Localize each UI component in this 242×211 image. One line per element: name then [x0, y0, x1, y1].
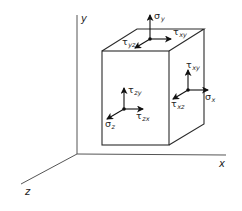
y-axis-label: y [80, 13, 88, 24]
right-face-stresses: τxy σx τxz [171, 59, 216, 111]
cube-top-face [102, 29, 204, 51]
cube-right-face [169, 29, 204, 145]
z-axis [21, 154, 77, 184]
tau-zy-label: τzy [128, 84, 142, 97]
sigma-y-label: σy [154, 10, 165, 23]
stress-element-diagram: y x z σy τxy τyz τzy [0, 0, 242, 211]
tau-yz-arrow [135, 39, 150, 48]
tau-yz-label: τyz [122, 36, 136, 49]
cube [102, 29, 204, 145]
z-axis-label: z [24, 186, 31, 197]
x-axis-label: x [218, 158, 225, 169]
tau-xz-label: τxz [171, 98, 185, 111]
tau-zx-label: τzx [136, 110, 150, 123]
sigma-z-label: σz [105, 118, 116, 131]
tau-xy-top-label: τxy [173, 26, 187, 39]
sigma-x-label: σx [205, 91, 216, 104]
front-face-stresses: τzy τzx σz [105, 84, 150, 131]
x-axis [77, 154, 226, 155]
